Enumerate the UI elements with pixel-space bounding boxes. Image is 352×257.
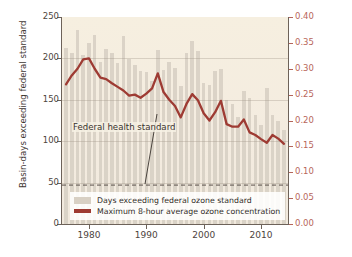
right-tick-label-0.35: 0.35 xyxy=(295,37,314,47)
left-tick-label-50: 50 xyxy=(48,177,59,187)
x-tick-2000 xyxy=(204,225,205,229)
right-tick-label-0.20: 0.20 xyxy=(295,115,314,125)
right-tick-label-0.15: 0.15 xyxy=(295,140,314,150)
x-tick-label-1990: 1990 xyxy=(135,230,158,240)
legend-label-days-exceeding: Days exceeding federal ozone standard xyxy=(97,196,252,205)
right-tick-label-0.10: 0.10 xyxy=(295,166,314,176)
x-tick-label-1980: 1980 xyxy=(78,230,101,240)
legend-line-swatch-icon xyxy=(74,209,91,213)
right-tick-0.20 xyxy=(289,121,293,122)
chart-legend: Days exceeding federal ozone standard Ma… xyxy=(70,192,285,221)
right-tick-0.35 xyxy=(289,43,293,44)
left-tick-label-0: 0 xyxy=(54,218,59,228)
left-tick-label-100: 100 xyxy=(43,135,59,145)
left-axis-title: Basin-days exceeding federal standard xyxy=(18,38,28,188)
legend-item-days-exceeding: Days exceeding federal ozone standard xyxy=(74,196,280,205)
x-tick-label-2000: 2000 xyxy=(192,230,215,240)
x-tick-label-2010: 2010 xyxy=(250,230,273,240)
right-tick-label-0.40: 0.40 xyxy=(295,11,314,21)
right-tick-label-0.00: 0.00 xyxy=(295,218,314,228)
right-tick-label-0.25: 0.25 xyxy=(295,89,314,99)
right-tick-0.15 xyxy=(289,146,293,147)
left-tick-label-200: 200 xyxy=(43,52,59,62)
federal-health-standard-annotation: Federal health standard xyxy=(72,122,176,132)
x-tick-1980 xyxy=(89,225,90,229)
right-tick-label-0.30: 0.30 xyxy=(295,63,314,73)
left-tick-label-150: 150 xyxy=(43,94,59,104)
right-tick-0.05 xyxy=(289,198,293,199)
x-tick-1990 xyxy=(146,225,147,229)
left-axis-line xyxy=(61,17,62,225)
legend-bar-swatch-icon xyxy=(74,197,91,204)
x-axis-line xyxy=(62,224,289,225)
ozone-trend-chart: Federal health standard Days exceeding f… xyxy=(0,0,352,257)
right-tick-0.30 xyxy=(289,69,293,70)
right-tick-0.00 xyxy=(289,224,293,225)
right-tick-0.10 xyxy=(289,172,293,173)
left-tick-label-250: 250 xyxy=(43,11,59,21)
legend-item-max-concentration: Maximum 8-hour average ozone concentrati… xyxy=(74,207,280,216)
plot-area: Federal health standard Days exceeding f… xyxy=(62,17,288,224)
right-tick-0.40 xyxy=(289,17,293,18)
right-tick-label-0.05: 0.05 xyxy=(295,192,314,202)
right-tick-0.25 xyxy=(289,95,293,96)
x-tick-2010 xyxy=(261,225,262,229)
legend-label-max-concentration: Maximum 8-hour average ozone concentrati… xyxy=(97,207,280,216)
